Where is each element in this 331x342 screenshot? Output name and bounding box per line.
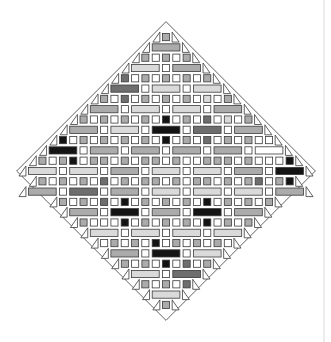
square-tile <box>49 157 56 164</box>
square-tile <box>255 157 262 164</box>
square-tile <box>214 157 221 164</box>
square-tile <box>163 147 170 154</box>
square-tile <box>224 188 231 195</box>
square-tile <box>204 137 211 144</box>
square-tile <box>204 229 211 236</box>
square-tile <box>183 126 190 133</box>
square-tile <box>111 219 118 226</box>
long-tile <box>235 209 263 216</box>
square-tile <box>183 157 190 164</box>
square-tile <box>276 178 283 185</box>
square-tile <box>163 219 170 226</box>
long-tile <box>111 188 139 195</box>
square-tile <box>70 198 77 205</box>
square-tile <box>152 240 159 247</box>
edge-triangle <box>60 207 67 217</box>
square-tile <box>193 219 200 226</box>
square-tile <box>152 281 159 288</box>
square-tile <box>245 137 252 144</box>
square-tile <box>132 260 139 267</box>
square-tile <box>286 178 293 185</box>
long-tile <box>193 250 221 257</box>
square-tile <box>101 116 108 123</box>
square-tile <box>245 219 252 226</box>
edge-triangle <box>265 207 272 217</box>
edge-triangle <box>306 187 313 197</box>
square-tile <box>266 178 273 185</box>
square-tile <box>193 95 200 102</box>
square-tile <box>173 281 180 288</box>
square-tile <box>152 178 159 185</box>
square-tile <box>183 240 190 247</box>
square-tile <box>163 198 170 205</box>
square-tile <box>255 178 262 185</box>
long-tile <box>173 106 201 113</box>
square-tile <box>80 198 87 205</box>
square-tile <box>152 157 159 164</box>
square-tile <box>173 137 180 144</box>
square-tile <box>173 54 180 61</box>
square-tile <box>224 126 231 133</box>
square-tile <box>266 167 273 174</box>
square-tile <box>142 209 149 216</box>
diamond-tiling <box>0 0 331 342</box>
square-tile <box>163 178 170 185</box>
square-tile <box>266 188 273 195</box>
square-tile <box>204 219 211 226</box>
square-tile <box>204 240 211 247</box>
square-tile <box>59 188 66 195</box>
edge-triangle <box>112 259 119 269</box>
long-tile <box>152 167 180 174</box>
square-tile <box>266 157 273 164</box>
square-tile <box>183 250 190 257</box>
square-tile <box>142 167 149 174</box>
square-tile <box>214 116 221 123</box>
long-tile <box>132 106 160 113</box>
edge-triangle <box>224 248 231 258</box>
square-tile <box>111 178 118 185</box>
square-tile <box>214 198 221 205</box>
square-tile <box>132 178 139 185</box>
square-tile <box>90 116 97 123</box>
square-tile <box>59 157 66 164</box>
square-tile <box>111 116 118 123</box>
square-tile <box>183 219 190 226</box>
square-tile <box>142 95 149 102</box>
long-tile <box>193 85 221 92</box>
square-tile <box>193 116 200 123</box>
square-tile <box>80 147 87 154</box>
long-tile <box>255 147 283 154</box>
square-tile <box>70 157 77 164</box>
square-tile <box>224 209 231 216</box>
square-tile <box>235 178 242 185</box>
square-tile <box>121 106 128 113</box>
edge-triangle <box>122 269 129 279</box>
square-tile <box>163 229 170 236</box>
long-tile <box>193 126 221 133</box>
square-tile <box>224 137 231 144</box>
square-tile <box>59 198 66 205</box>
square-tile <box>142 188 149 195</box>
square-tile <box>111 157 118 164</box>
edge-triangle <box>275 197 282 207</box>
square-tile <box>121 95 128 102</box>
long-tile <box>90 229 118 236</box>
square-tile <box>193 137 200 144</box>
square-tile <box>173 260 180 267</box>
long-tile <box>235 188 263 195</box>
square-tile <box>142 198 149 205</box>
square-tile <box>111 95 118 102</box>
long-tile <box>111 250 139 257</box>
edge-triangle <box>101 248 108 258</box>
edge-triangle <box>234 238 241 248</box>
square-tile <box>101 137 108 144</box>
square-tile <box>173 95 180 102</box>
square-tile <box>183 116 190 123</box>
edge-triangle <box>153 300 160 310</box>
square-tile <box>101 198 108 205</box>
square-tile <box>245 157 252 164</box>
square-tile <box>101 126 108 133</box>
square-tile <box>183 95 190 102</box>
square-tile <box>121 229 128 236</box>
square-tile <box>173 178 180 185</box>
